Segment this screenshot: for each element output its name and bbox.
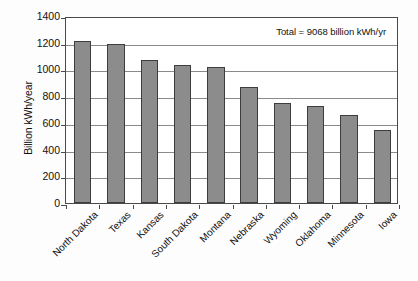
y-axis-tick-label: 200	[18, 170, 60, 182]
y-axis-tick	[61, 71, 66, 72]
bar	[174, 65, 191, 203]
x-axis-tick	[233, 205, 234, 209]
y-axis-tick-label: 1400	[18, 10, 60, 22]
x-axis-tick	[133, 205, 134, 209]
x-axis-category-label: North Dakota	[0, 209, 99, 281]
bar-chart: Billion kWh/year 02004006008001000120014…	[0, 0, 418, 281]
y-axis-tick-label: 400	[18, 144, 60, 156]
y-axis-tick	[61, 125, 66, 126]
bar	[107, 44, 124, 203]
bar	[240, 87, 257, 203]
bar	[307, 106, 324, 203]
bar	[141, 60, 158, 203]
y-axis-tick-label: 600	[18, 117, 60, 129]
total-annotation: Total = 9068 billion kWh/yr	[271, 24, 391, 40]
y-axis-tick	[61, 18, 66, 19]
bar	[74, 41, 91, 203]
x-axis-tick	[266, 205, 267, 209]
y-axis-tick-label: 1000	[18, 63, 60, 75]
x-axis-tick	[199, 205, 200, 209]
y-axis-tick-label: 1200	[18, 37, 60, 49]
bar	[207, 67, 224, 203]
bar	[374, 130, 391, 203]
x-axis-tick	[99, 205, 100, 209]
y-axis-tick	[61, 178, 66, 179]
y-axis-tick-label: 800	[18, 90, 60, 102]
y-axis-tick-label: 0	[18, 197, 60, 209]
y-axis-tick	[61, 152, 66, 153]
y-axis-tick	[61, 45, 66, 46]
y-axis-tick	[61, 98, 66, 99]
x-axis-tick	[299, 205, 300, 209]
x-axis-tick	[332, 205, 333, 209]
x-axis-tick	[399, 205, 400, 209]
bar	[274, 103, 291, 203]
x-axis-tick	[366, 205, 367, 209]
plot-area: Total = 9068 billion kWh/yr	[65, 17, 398, 204]
x-axis-tick	[66, 205, 67, 209]
x-axis-tick	[166, 205, 167, 209]
bar	[340, 115, 357, 203]
